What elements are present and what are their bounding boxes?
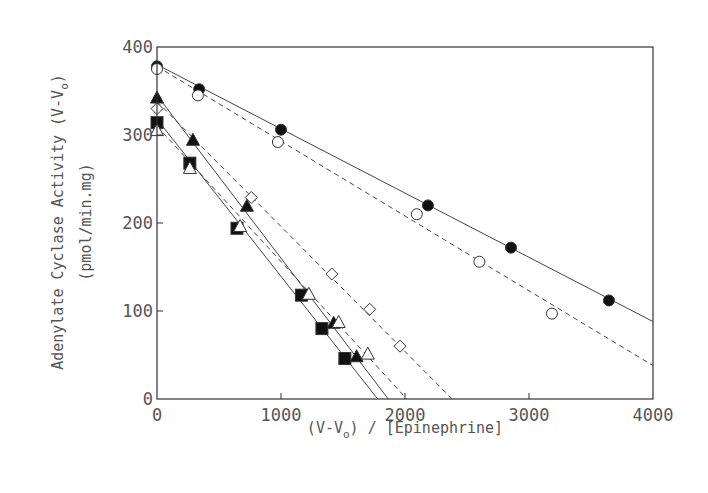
y-axis-title-pre: Adenylate Cyclase Activity (V-V bbox=[49, 90, 67, 370]
y-axis-title-line2: (pmol/min.mg) bbox=[77, 163, 95, 280]
triangle-marker bbox=[186, 133, 199, 145]
x-axis-title: (V-Vo) / [Epinephrine] bbox=[307, 419, 503, 441]
fit-line bbox=[157, 66, 653, 365]
circle-marker bbox=[546, 308, 557, 319]
fit-line bbox=[157, 102, 452, 399]
x-tick-label: 4000 bbox=[633, 405, 674, 425]
square-marker bbox=[316, 323, 328, 335]
x-tick-label: 0 bbox=[152, 405, 162, 425]
circle-marker bbox=[603, 295, 614, 306]
circle-marker bbox=[506, 242, 517, 253]
y-tick-label: 400 bbox=[122, 37, 153, 57]
y-axis-title-post: ) bbox=[49, 74, 67, 83]
x-axis-title-sub: o bbox=[343, 428, 350, 441]
data-markers bbox=[151, 61, 615, 365]
circle-marker bbox=[272, 137, 283, 148]
circle-marker bbox=[276, 124, 287, 135]
diamond-marker bbox=[364, 303, 376, 315]
circle-marker bbox=[422, 200, 433, 211]
y-tick-label: 200 bbox=[122, 213, 153, 233]
scatter-chart: 01000200030004000 0100200300400 (V-Vo) /… bbox=[0, 0, 708, 493]
y-tick-label: 300 bbox=[122, 125, 153, 145]
square-marker bbox=[339, 353, 351, 365]
circle-marker bbox=[474, 256, 485, 267]
x-axis-title-post: ) / [Epinephrine] bbox=[350, 419, 504, 437]
y-tick-label: 100 bbox=[122, 301, 153, 321]
y-axis-title-line1: Adenylate Cyclase Activity (V-Vo) bbox=[49, 74, 71, 370]
diamond-marker bbox=[326, 268, 338, 280]
triangle-marker bbox=[361, 347, 374, 359]
y-tick-label: 0 bbox=[143, 389, 153, 409]
y-axis-title-sub: o bbox=[58, 83, 71, 90]
x-tick-label: 1000 bbox=[261, 405, 302, 425]
diamond-marker bbox=[394, 340, 406, 352]
circle-marker bbox=[192, 90, 203, 101]
x-tick-label: 3000 bbox=[509, 405, 550, 425]
x-axis-title-pre: (V-V bbox=[307, 419, 343, 437]
circle-marker bbox=[411, 209, 422, 220]
